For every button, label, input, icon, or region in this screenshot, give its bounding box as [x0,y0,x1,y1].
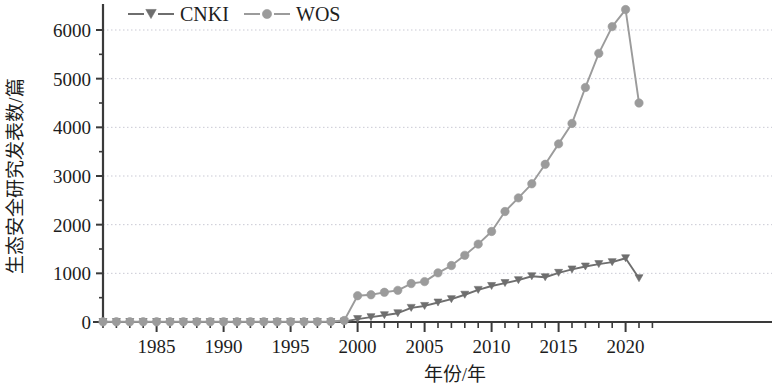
data-point-wos-2017 [581,83,589,91]
data-point-wos-1987 [179,318,187,326]
x-axis-tick-labels-group: 19851990199520002005201020152020 [138,336,645,357]
data-point-wos-2000 [353,292,361,300]
data-point-wos-1981 [99,318,107,326]
data-point-wos-2010 [487,227,495,235]
data-point-wos-2009 [474,240,482,248]
legend-marker-wos [262,9,271,18]
data-point-wos-1986 [166,318,174,326]
y-axis-title: 生态安全研究发表数/篇 [5,78,26,273]
data-point-wos-1984 [139,318,147,326]
data-point-wos-1989 [206,318,214,326]
x-tick-label-2015: 2015 [540,336,578,357]
data-point-wos-2003 [394,286,402,294]
axis-lines-group [93,4,772,322]
data-point-wos-2006 [434,269,442,277]
data-point-wos-2014 [541,160,549,168]
y-tick-label-3000: 3000 [53,166,91,187]
x-tick-label-2020: 2020 [607,336,645,357]
data-point-wos-2002 [380,288,388,296]
x-tick-label-2010: 2010 [473,336,511,357]
series-line-cnki [103,258,639,322]
legend-item-cnki[interactable]: CNKI [128,3,229,25]
data-point-wos-1994 [273,318,281,326]
data-point-wos-2019 [608,22,616,30]
data-series-group [99,5,643,326]
x-tick-label-2005: 2005 [406,336,444,357]
y-tick-label-6000: 6000 [53,20,91,41]
legend-label-cnki: CNKI [180,3,229,25]
data-point-wos-1995 [286,318,294,326]
data-point-wos-1997 [313,318,321,326]
data-point-wos-2021 [635,99,643,107]
x-axis-title: 年份/年 [424,364,486,385]
y-axis-tick-labels-group: 0100020003000400050006000 [53,20,91,333]
data-point-wos-2012 [514,194,522,202]
y-tick-label-0: 0 [82,312,92,333]
chart-container: 19851990199520002005201020152020 0100020… [0,0,779,388]
data-point-wos-1996 [300,318,308,326]
x-tick-label-1995: 1995 [272,336,310,357]
data-point-wos-1983 [126,318,134,326]
data-point-wos-1991 [233,318,241,326]
y-tick-label-5000: 5000 [53,69,91,90]
data-point-wos-1992 [246,318,254,326]
data-point-wos-2011 [501,207,509,215]
legend-marker-cnki [146,9,156,18]
data-point-wos-2013 [528,180,536,188]
data-point-wos-1985 [152,318,160,326]
ecological-security-publications-line-chart: 19851990199520002005201020152020 0100020… [0,0,779,388]
series-wos [99,5,643,326]
data-point-wos-1988 [193,318,201,326]
data-point-cnki-2021 [635,275,643,282]
data-point-wos-1999 [340,316,348,324]
data-point-wos-2015 [554,140,562,148]
data-point-wos-2001 [367,291,375,299]
data-point-wos-2020 [621,5,629,13]
series-cnki [99,255,643,326]
data-point-wos-2008 [461,251,469,259]
data-point-wos-2016 [568,119,576,127]
data-point-wos-2007 [447,261,455,269]
y-tick-label-1000: 1000 [53,263,91,284]
gridlines-group [103,30,772,273]
data-point-wos-1998 [327,317,335,325]
data-point-wos-2018 [595,49,603,57]
data-point-wos-2004 [407,279,415,287]
legend-item-wos[interactable]: WOS [244,3,340,25]
x-tick-label-2000: 2000 [339,336,377,357]
data-point-wos-1993 [260,318,268,326]
data-point-wos-1982 [112,318,120,326]
data-point-wos-2005 [420,277,428,285]
data-point-wos-1990 [219,318,227,326]
x-tick-label-1990: 1990 [205,336,243,357]
x-tick-label-1985: 1985 [138,336,176,357]
legend-group: CNKIWOS [128,3,340,25]
legend-label-wos: WOS [296,3,340,25]
y-tick-label-2000: 2000 [53,215,91,236]
y-tick-label-4000: 4000 [53,117,91,138]
